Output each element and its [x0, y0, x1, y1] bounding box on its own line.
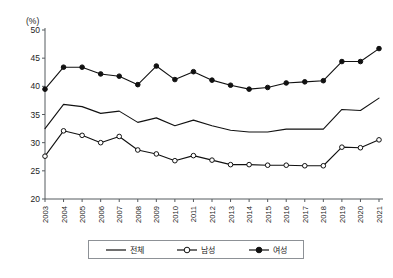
legend-label-female: 여성	[273, 244, 287, 255]
x-tick-label: 2017	[301, 206, 310, 223]
data-point	[98, 72, 103, 77]
data-point	[43, 154, 48, 159]
x-tick-label: 2003	[41, 206, 50, 223]
data-point	[191, 153, 196, 158]
data-point	[191, 69, 196, 74]
data-point	[377, 138, 382, 143]
data-point	[321, 163, 326, 168]
x-tick-label: 2019	[338, 206, 347, 223]
data-point	[61, 65, 66, 70]
y-tick-label: 45	[31, 53, 41, 63]
data-point	[80, 133, 85, 138]
x-tick-label: 2021	[375, 206, 384, 223]
data-point	[302, 80, 307, 85]
series-line-2	[45, 49, 379, 90]
legend-label-total: 전체	[130, 244, 144, 255]
data-point	[210, 158, 215, 163]
data-point	[302, 163, 307, 168]
x-tick-label: 2004	[60, 206, 69, 223]
series-line-0	[45, 98, 379, 132]
y-tick-label: 50	[31, 25, 41, 35]
data-point	[173, 158, 178, 163]
data-point	[265, 85, 270, 90]
legend-item-female: 여성	[248, 244, 287, 255]
data-point	[61, 129, 66, 134]
data-point	[247, 162, 252, 167]
data-point	[135, 82, 140, 87]
chart-legend: 전체 남성 여성	[88, 240, 304, 259]
data-point	[340, 59, 345, 64]
data-point	[358, 59, 363, 64]
legend-swatch-filled-circle-icon	[248, 245, 270, 255]
data-point	[340, 145, 345, 150]
data-point	[117, 134, 122, 139]
legend-item-male: 남성	[176, 244, 215, 255]
x-tick-label: 2006	[97, 206, 106, 223]
data-point	[284, 81, 289, 86]
x-tick-label: 2013	[227, 206, 236, 223]
x-tick-label: 2016	[282, 206, 291, 223]
data-point	[321, 78, 326, 83]
chart-container: (%)2025303540455020032004200520062007200…	[0, 0, 393, 278]
x-tick-label: 2014	[245, 206, 254, 223]
x-tick-label: 2011	[189, 206, 198, 222]
x-tick-label: 2018	[319, 206, 328, 223]
data-point	[228, 83, 233, 88]
line-chart: (%)2025303540455020032004200520062007200…	[0, 0, 393, 278]
x-tick-label: 2010	[171, 206, 180, 223]
data-point	[135, 148, 140, 153]
data-point	[210, 78, 215, 83]
legend-swatch-open-circle-icon	[176, 245, 198, 255]
legend-item-total: 전체	[105, 244, 144, 255]
data-point	[98, 140, 103, 145]
data-point	[247, 87, 252, 92]
data-point	[377, 46, 382, 51]
y-tick-label: 30	[31, 138, 41, 148]
x-tick-label: 2005	[78, 206, 87, 223]
data-point	[265, 163, 270, 168]
x-tick-label: 2009	[152, 206, 161, 223]
data-point	[284, 163, 289, 168]
data-point	[80, 65, 85, 70]
data-point	[154, 64, 159, 69]
x-tick-label: 2015	[264, 206, 273, 223]
y-tick-label: 25	[31, 166, 41, 176]
x-tick-label: 2020	[356, 206, 365, 223]
data-point	[154, 152, 159, 157]
y-tick-label: 35	[31, 110, 41, 120]
y-tick-label: 20	[31, 194, 41, 204]
data-point	[43, 87, 48, 92]
data-point	[173, 77, 178, 82]
x-tick-label: 2012	[208, 206, 217, 223]
y-tick-label: 40	[31, 81, 41, 91]
x-tick-label: 2008	[134, 206, 143, 223]
legend-swatch-line-icon	[105, 245, 127, 255]
data-point	[228, 162, 233, 167]
legend-label-male: 남성	[201, 244, 215, 255]
x-tick-label: 2007	[115, 206, 124, 223]
data-point	[117, 74, 122, 79]
data-point	[358, 145, 363, 150]
